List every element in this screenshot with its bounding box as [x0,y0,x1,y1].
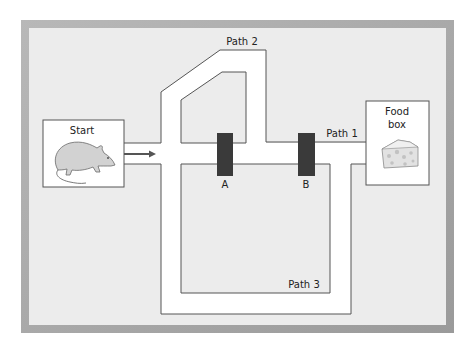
gate-b-label: B [303,179,310,190]
food-box: Food box [366,101,429,185]
path-1-label: Path 1 [326,128,358,139]
food-box-label-line2: box [388,119,406,130]
maze-diagram: Start Food box [0,0,474,346]
path-3-label: Path 3 [288,279,320,290]
gate-b [298,133,315,176]
food-box-label-line1: Food [385,106,409,117]
gate-a [217,133,233,176]
path-2-label: Path 2 [226,36,258,47]
start-box: Start [43,120,124,187]
gate-a-label: A [222,179,229,190]
start-label: Start [70,125,95,136]
